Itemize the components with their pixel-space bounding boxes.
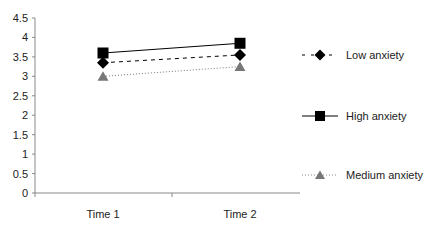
legend-item-medium-anxiety: Medium anxiety — [300, 167, 423, 183]
y-tick-label: 3 — [22, 70, 28, 82]
y-tick-label: 1 — [22, 148, 28, 160]
legend-label: Medium anxiety — [346, 169, 423, 181]
y-tick-label: 0.5 — [13, 168, 28, 180]
square-marker-icon — [300, 110, 340, 122]
diamond-marker-icon — [300, 49, 340, 61]
x-category-label: Time 1 — [86, 208, 119, 220]
legend: Low anxiety High anxiety Medium anxiety — [300, 0, 443, 231]
series-layer — [97, 38, 246, 81]
y-tick-label: 2 — [22, 109, 28, 121]
y-tick-label: 2.5 — [13, 90, 28, 102]
y-tick-label: 3.5 — [13, 51, 28, 63]
y-tick-label: 1.5 — [13, 129, 28, 141]
legend-item-low-anxiety: Low anxiety — [300, 47, 404, 63]
diamond-marker-icon — [97, 57, 109, 69]
y-tick-label: 4.5 — [13, 12, 28, 24]
x-category-label: Time 2 — [223, 208, 256, 220]
legend-label: Low anxiety — [346, 49, 404, 61]
y-tick-label: 4 — [22, 31, 28, 43]
legend-item-high-anxiety: High anxiety — [300, 108, 407, 124]
y-tick-labels: 0 0.5 1 1.5 2 2.5 3 3.5 4 4.5 — [13, 12, 28, 199]
series-medium-anxiety — [98, 62, 246, 81]
triangle-marker-icon — [235, 62, 246, 72]
triangle-marker-icon — [300, 169, 340, 181]
y-tick-label: 0 — [22, 187, 28, 199]
series-high-anxiety — [98, 38, 246, 59]
diamond-marker-icon — [234, 49, 246, 61]
legend-label: High anxiety — [346, 110, 407, 122]
square-marker-icon — [98, 48, 109, 59]
square-marker-icon — [235, 38, 246, 49]
chart-plot-area: 0 0.5 1 1.5 2 2.5 3 3.5 4 4.5 Time 1 Tim… — [0, 0, 300, 231]
